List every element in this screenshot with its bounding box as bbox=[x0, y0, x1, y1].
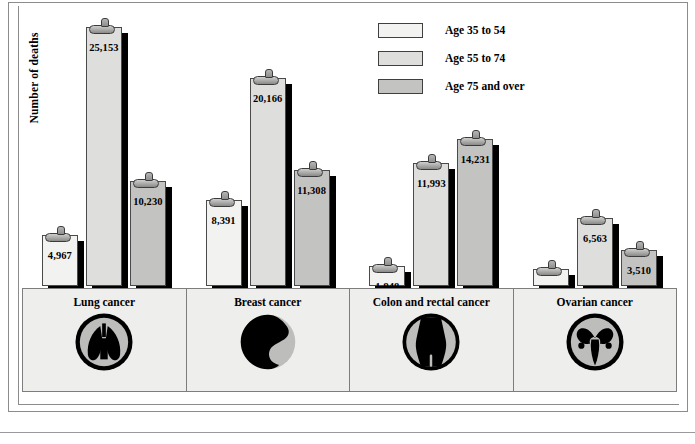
legend-swatch bbox=[378, 79, 423, 94]
legend-label: Age 55 to 74 bbox=[445, 52, 505, 64]
legend-item: Age 55 to 74 bbox=[378, 44, 608, 72]
clipboard-tab-icon bbox=[265, 69, 273, 78]
category-cell[interactable]: Breast cancer bbox=[187, 289, 351, 391]
legend-swatch bbox=[378, 23, 423, 38]
bar-body bbox=[577, 218, 613, 286]
bar-value-label: 11,993 bbox=[413, 178, 449, 189]
bar-value-label: 4,967 bbox=[42, 250, 78, 261]
clipboard-tab-icon bbox=[472, 130, 480, 139]
legend: Age 35 to 54Age 55 to 74Age 75 and over bbox=[378, 16, 608, 100]
legend-item: Age 35 to 54 bbox=[378, 16, 608, 44]
bar-body bbox=[206, 200, 242, 286]
bar-value-label: 11,308 bbox=[294, 185, 330, 196]
category-label: Colon and rectal cancer bbox=[373, 296, 490, 308]
lungs-icon bbox=[73, 311, 135, 377]
bar-value-label: 25,153 bbox=[86, 42, 122, 53]
breast-icon bbox=[237, 311, 299, 377]
bar[interactable]: 14,231 bbox=[457, 139, 493, 286]
bar[interactable]: 6,563 bbox=[577, 218, 613, 286]
bar[interactable]: 8,391 bbox=[206, 200, 242, 286]
torso-colon-icon bbox=[400, 311, 462, 377]
bar[interactable]: 20,166 bbox=[250, 78, 286, 286]
clipboard-tab-icon bbox=[309, 161, 317, 170]
bar[interactable]: 11,993 bbox=[413, 163, 449, 286]
clipboard-tab-icon bbox=[145, 172, 153, 181]
bar-body bbox=[250, 78, 286, 286]
page-bottom-rule bbox=[0, 432, 695, 433]
category-cell[interactable]: Lung cancer bbox=[23, 289, 187, 391]
legend-label: Age 75 and over bbox=[445, 80, 525, 92]
clipboard-tab-icon bbox=[384, 257, 392, 266]
bar-group: 8,39120,16611,308 bbox=[186, 8, 350, 286]
bar[interactable]: 11,308 bbox=[294, 170, 330, 286]
legend-label: Age 35 to 54 bbox=[445, 24, 505, 36]
uterus-ovaries-icon bbox=[564, 311, 626, 377]
bar[interactable]: 10,230 bbox=[130, 181, 166, 286]
clipboard-tab-icon bbox=[221, 191, 229, 200]
clipboard-tab-icon bbox=[636, 241, 644, 250]
chart-figure: Number of deaths 4,96725,15310,2308,3912… bbox=[0, 0, 695, 444]
legend-item: Age 75 and over bbox=[378, 72, 608, 100]
clipboard-tab-icon bbox=[57, 226, 65, 235]
clipboard-tab-icon bbox=[548, 260, 556, 269]
category-label: Breast cancer bbox=[234, 296, 301, 308]
clipboard-tab-icon bbox=[592, 209, 600, 218]
category-label: Ovarian cancer bbox=[557, 296, 633, 308]
bar-value-label: 3,510 bbox=[621, 265, 657, 276]
clipboard-tab-icon bbox=[101, 18, 109, 27]
bar-value-label: 6,563 bbox=[577, 233, 613, 244]
category-label: Lung cancer bbox=[73, 296, 135, 308]
category-cell[interactable]: Colon and rectal cancer bbox=[350, 289, 514, 391]
bar-group: 4,96725,15310,230 bbox=[22, 8, 186, 286]
bar-value-label: 20,166 bbox=[250, 93, 286, 104]
bar-value-label: 8,391 bbox=[206, 215, 242, 226]
bar[interactable]: 25,153 bbox=[86, 27, 122, 286]
category-strip: Lung cancerBreast cancerColon and rectal… bbox=[22, 288, 677, 392]
bar-value-label: 14,231 bbox=[457, 154, 493, 165]
legend-swatch bbox=[378, 51, 423, 66]
bar[interactable]: 4,967 bbox=[42, 235, 78, 286]
bar-value-label: 10,230 bbox=[130, 196, 166, 207]
bar[interactable]: 1,948 bbox=[369, 266, 405, 286]
bar[interactable]: 1,688 bbox=[533, 269, 569, 286]
clipboard-tab-icon bbox=[428, 154, 436, 163]
bar[interactable]: 3,510 bbox=[621, 250, 657, 286]
bar-body bbox=[86, 27, 122, 286]
category-cell[interactable]: Ovarian cancer bbox=[514, 289, 677, 391]
